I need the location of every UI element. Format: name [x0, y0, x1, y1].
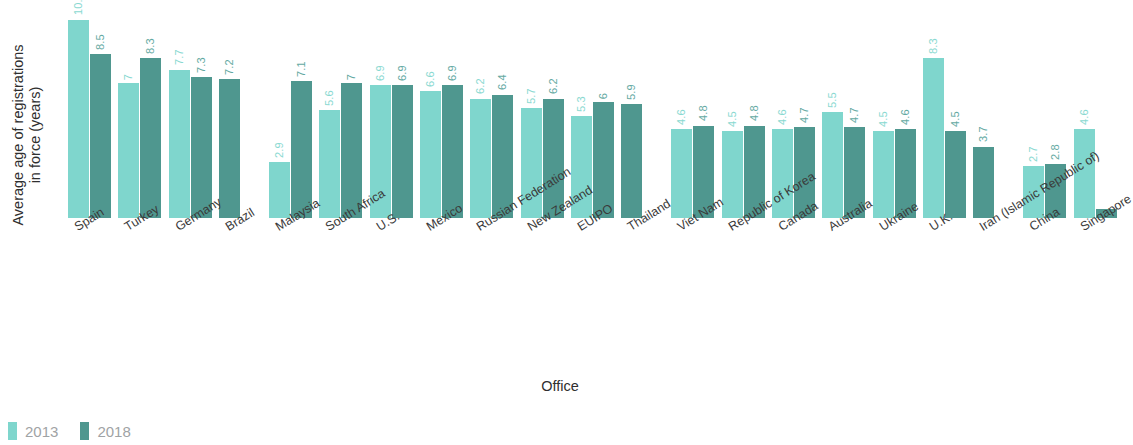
- bar-value-label-2018: 6.9: [396, 65, 408, 81]
- bar-value-label-2013: 2.7: [1027, 146, 1039, 162]
- bar-value-label-2013: 5.7: [525, 88, 537, 104]
- bar-2013: [118, 83, 139, 218]
- bar-value-label-2013: 5.6: [323, 90, 335, 106]
- bar-value-label-2018: 8.5: [94, 34, 106, 50]
- bar-value-label-2013: 4.6: [776, 109, 788, 125]
- bar-value-label-2018: 6.2: [547, 78, 559, 94]
- bar-value-label-2018: 4.7: [798, 107, 810, 123]
- bar-value-label-2018: 6.4: [496, 74, 508, 90]
- legend-item[interactable]: 2018: [80, 422, 130, 440]
- bar-value-label-2018: 5.9: [625, 84, 637, 100]
- bar-2013: [923, 58, 944, 218]
- bar-2013: [822, 112, 843, 218]
- bar-value-label-2013: 4.5: [877, 111, 889, 127]
- bar-value-label-2018: 6: [597, 93, 609, 99]
- bar-value-label-2013: 6.6: [424, 71, 436, 87]
- x-axis-title: Office: [0, 378, 1120, 394]
- bar-2018: [140, 58, 161, 218]
- bar-value-label-2013: 10.3: [72, 0, 84, 15]
- bar-value-label-2013: 4.6: [675, 109, 687, 125]
- bar-2018: [90, 54, 111, 218]
- chart-legend: 20132018: [8, 422, 131, 440]
- legend-swatch-icon: [80, 422, 89, 440]
- bar-value-label-2013: 2.9: [273, 142, 285, 158]
- legend-label: 2013: [25, 423, 58, 440]
- bar-2013: [420, 91, 441, 218]
- y-axis-title: Average age of registrations in force (y…: [10, 20, 44, 250]
- legend-item[interactable]: 2013: [8, 422, 58, 440]
- bar-value-label-2018: 7: [345, 74, 357, 80]
- bar-2013: [169, 70, 190, 218]
- bar-value-label-2018: 4.8: [697, 105, 709, 121]
- bar-value-label-2018: 4.8: [748, 105, 760, 121]
- bar-value-label-2013: 4.6: [1078, 109, 1090, 125]
- bar-value-label-2018: 3.7: [977, 126, 989, 142]
- bar-value-label-2018: 4.7: [848, 107, 860, 123]
- bar-value-label-2018: 2.8: [1049, 144, 1061, 160]
- bar-2013: [671, 129, 692, 218]
- bar-value-label-2018: 7.2: [223, 59, 235, 75]
- bar-value-label-2013: 5.3: [575, 96, 587, 112]
- bar-value-label-2018: 7.3: [195, 57, 207, 73]
- bar-2018: [442, 85, 463, 218]
- legend-label: 2018: [97, 423, 130, 440]
- bar-value-label-2013: 6.2: [474, 78, 486, 94]
- bar-2013: [269, 162, 290, 218]
- bar-value-label-2013: 8.3: [927, 38, 939, 54]
- legend-swatch-icon: [8, 422, 17, 440]
- bar-value-label-2013: 4.5: [726, 111, 738, 127]
- bar-value-label-2018: 4.5: [949, 111, 961, 127]
- bar-value-label-2013: 7.7: [173, 49, 185, 65]
- bar-2018: [219, 79, 240, 218]
- bar-value-label-2013: 5.5: [826, 92, 838, 108]
- bar-2018: [973, 147, 994, 218]
- plot-area: 10.38.578.37.77.37.22.97.15.676.96.96.66…: [64, 6, 1120, 218]
- bar-2018: [621, 104, 642, 218]
- bar-2018: [593, 102, 614, 218]
- bar-2018: [291, 81, 312, 218]
- bar-2013: [319, 110, 340, 218]
- bar-2018: [392, 85, 413, 218]
- bar-value-label-2018: 6.9: [446, 65, 458, 81]
- bar-value-label-2013: 7: [122, 74, 134, 80]
- bar-value-label-2013: 6.9: [374, 65, 386, 81]
- bar-2018: [191, 77, 212, 218]
- bar-value-label-2018: 4.6: [899, 109, 911, 125]
- bar-2013: [470, 99, 491, 218]
- bar-2018: [945, 131, 966, 218]
- bar-value-label-2018: 8.3: [144, 38, 156, 54]
- bar-value-label-2018: 7.1: [295, 61, 307, 77]
- bar-2013: [68, 20, 89, 219]
- bar-2013: [873, 131, 894, 218]
